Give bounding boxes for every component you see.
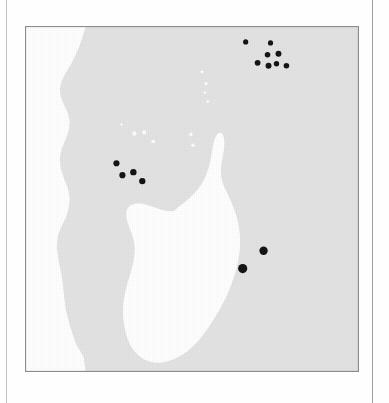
map-frame bbox=[25, 26, 359, 372]
island-speck-4 bbox=[207, 100, 210, 103]
scanned-page bbox=[0, 0, 389, 403]
seychelles-8 bbox=[284, 63, 290, 69]
page-rule-left bbox=[6, 0, 7, 403]
comoros-2 bbox=[142, 130, 146, 134]
seychelles-3 bbox=[265, 52, 271, 58]
comoros-3 bbox=[151, 139, 155, 143]
island-speck-9 bbox=[58, 82, 61, 85]
island-speck-3 bbox=[203, 91, 206, 94]
island-speck-6 bbox=[191, 144, 195, 148]
page-rule-right bbox=[372, 0, 373, 403]
island-speck-1 bbox=[200, 70, 203, 73]
mauritius bbox=[259, 247, 267, 255]
island-speck-8 bbox=[60, 73, 63, 76]
seychelles-1 bbox=[243, 39, 248, 44]
island-speck-2 bbox=[204, 82, 207, 85]
island-speck-5 bbox=[189, 133, 193, 137]
seychelles-5 bbox=[255, 60, 261, 66]
aldabra-comoros-3 bbox=[130, 169, 136, 175]
aldabra-comoros-4 bbox=[139, 178, 145, 184]
seychelles-4 bbox=[275, 51, 281, 57]
comoros-1 bbox=[132, 131, 136, 135]
reunion bbox=[238, 264, 247, 273]
seychelles-7 bbox=[274, 61, 279, 66]
seychelles-6 bbox=[266, 63, 272, 69]
aldabra-comoros-2 bbox=[119, 172, 125, 178]
distribution-map bbox=[26, 27, 358, 371]
island-speck-7 bbox=[120, 123, 122, 125]
seychelles-2 bbox=[268, 40, 273, 45]
aldabra-comoros-1 bbox=[113, 160, 119, 166]
